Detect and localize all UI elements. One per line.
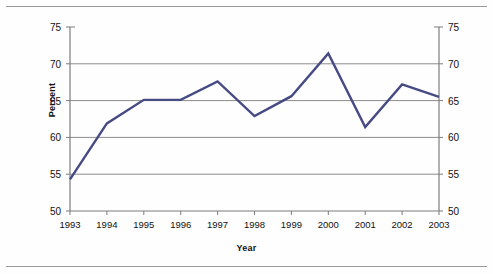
bottom-divider-rule: [6, 266, 487, 267]
chart-canvas: 505560657075 505560657075 19931994199519…: [0, 10, 493, 262]
y-tick-label-right: 70: [448, 59, 460, 70]
y-tick-label-right: 65: [448, 96, 460, 107]
x-tick-label: 2003: [428, 219, 449, 230]
series-polyline-percent: [70, 54, 439, 180]
x-tick-label: 1993: [59, 219, 80, 230]
x-tick-label: 1999: [281, 219, 302, 230]
x-tick-label: 2002: [392, 219, 413, 230]
data-series-line: [70, 54, 439, 180]
y-tick-label-left: 60: [50, 132, 62, 143]
x-tick-label: 1998: [244, 219, 265, 230]
line-chart: 505560657075 505560657075 19931994199519…: [0, 10, 493, 262]
y-tick-label-right: 55: [448, 169, 460, 180]
y-tick-label-right: 75: [448, 22, 460, 33]
x-tick-label: 1997: [207, 219, 228, 230]
y-tick-label-left: 70: [50, 59, 62, 70]
y-tick-label-left: 75: [50, 22, 62, 33]
y-tick-label-right: 50: [448, 206, 460, 217]
x-tick-label: 1995: [133, 219, 154, 230]
figure-panel: 505560657075 505560657075 19931994199519…: [0, 0, 493, 274]
x-tick-label: 1994: [96, 219, 117, 230]
y-axis-title: Percent: [47, 70, 57, 130]
y-axis-right-tick-labels: 505560657075: [448, 22, 460, 217]
y-tick-label-right: 60: [448, 132, 460, 143]
tick-marks-group: [66, 27, 443, 215]
gridlines-group: [70, 64, 439, 174]
x-tick-label: 2001: [355, 219, 376, 230]
axis-lines-group: [70, 27, 439, 211]
x-axis-title: Year: [0, 243, 493, 253]
top-divider-rule: [6, 6, 487, 7]
x-tick-label: 2000: [318, 219, 339, 230]
y-tick-label-left: 50: [50, 206, 62, 217]
y-tick-label-left: 55: [50, 169, 62, 180]
x-tick-label: 1996: [170, 219, 191, 230]
x-axis-tick-labels: 1993199419951996199719981999200020012002…: [59, 219, 449, 230]
